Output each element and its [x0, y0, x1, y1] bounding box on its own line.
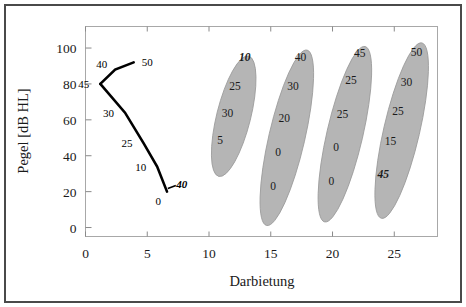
y-tick-label: 0	[70, 221, 77, 236]
line-point-label: 40	[96, 58, 108, 70]
x-tick-label: 10	[202, 246, 216, 261]
line-point-label: 45	[78, 78, 90, 90]
cluster-point-label: 10	[239, 51, 251, 63]
x-tick-labels: 0510152025	[82, 246, 401, 261]
line-point-label: 25	[122, 137, 134, 149]
annotation-label: 40	[175, 178, 188, 190]
y-tick-label: 100	[56, 41, 77, 56]
chart-canvas: 020406080100 0510152025 1025305403020004…	[0, 0, 466, 307]
x-tick-label: 25	[388, 246, 402, 261]
y-axis-title: Pegel [dB HL]	[15, 88, 31, 173]
x-tick-label: 15	[264, 246, 278, 261]
y-tick-label: 40	[63, 149, 77, 164]
cluster-point-label: 0	[270, 180, 276, 192]
cluster-point-label: 5	[217, 134, 223, 146]
cluster-point-label: 25	[345, 74, 357, 86]
x-tick-label: 5	[144, 246, 151, 261]
y-tick-labels: 020406080100	[56, 41, 77, 235]
cluster-point-label: 20	[279, 112, 291, 124]
cluster-point-label: 0	[333, 141, 339, 153]
x-tick-label: 20	[326, 246, 340, 261]
cluster-point-label: 40	[295, 51, 307, 63]
y-tick-label: 80	[63, 77, 77, 92]
cluster-point-label: 30	[401, 76, 413, 88]
cluster-point-label: 30	[222, 107, 234, 119]
x-tick-label: 0	[82, 246, 89, 261]
line-point-label: 30	[103, 107, 115, 119]
y-tick-label: 20	[63, 185, 77, 200]
cluster-point-label: 15	[385, 135, 397, 147]
cluster-point-label: 30	[287, 80, 299, 92]
y-tick-label: 60	[63, 113, 77, 128]
x-axis-title: Darbietung	[229, 273, 294, 289]
line-point-label: 10	[135, 161, 147, 173]
cluster-point-label: 45	[354, 47, 366, 59]
cluster-point-label: 0	[328, 175, 334, 187]
line-point-label: 0	[156, 195, 162, 207]
cluster-point-label: 25	[392, 105, 404, 117]
line-point-label: 50	[142, 56, 154, 68]
cluster-point-label: 25	[337, 108, 349, 120]
cluster-point-label: 25	[229, 80, 241, 92]
cluster-point-label: 50	[411, 46, 423, 58]
cluster-point-label: 45	[376, 168, 389, 180]
cluster-point-label: 0	[275, 146, 281, 158]
figure-container: 020406080100 0510152025 1025305403020004…	[0, 0, 466, 307]
